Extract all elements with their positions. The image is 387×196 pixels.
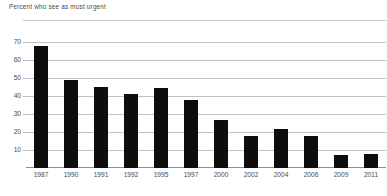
gridline-10 [26,150,386,151]
y-tick-label-40: 40 [14,93,21,100]
bar-1991 [94,87,108,168]
bar-2009 [334,155,348,168]
bar-1995 [154,88,168,168]
x-tick-label-2000: 2000 [206,172,236,179]
x-tick-label-2011: 2011 [356,172,386,179]
bar-1992 [124,94,138,168]
y-tick-label-30: 30 [14,111,21,118]
gridline-30 [26,114,386,115]
y-axis: 10203040506070 [6,37,21,168]
gridline-60 [26,60,386,61]
x-tick-label-1995: 1995 [146,172,176,179]
plot-area [26,37,386,168]
y-tick-label-10: 10 [14,147,21,154]
x-axis: 1987199019911992199519972000200220042006… [26,172,386,188]
bar-1997 [184,100,198,168]
gridline-40 [26,96,386,97]
bar-2006 [304,136,318,168]
x-tick-label-1991: 1991 [86,172,116,179]
gridline-70 [26,42,386,43]
y-tick-label-70: 70 [14,39,21,46]
bar-chart-figure: Percent who see as most urgent 102030405… [0,0,387,196]
bar-1987 [34,46,48,168]
gridline-20 [26,132,386,133]
y-tick-label-60: 60 [14,57,21,64]
x-tick-label-1987: 1987 [26,172,56,179]
bar-2000 [214,120,228,168]
x-axis-baseline [26,167,386,168]
y-tick-label-20: 20 [14,129,21,136]
x-tick-label-1997: 1997 [176,172,206,179]
gridline-50 [26,78,386,79]
bar-2002 [244,136,258,168]
x-tick-label-2006: 2006 [296,172,326,179]
x-tick-label-2009: 2009 [326,172,356,179]
x-tick-label-1992: 1992 [116,172,146,179]
chart-title: Percent who see as most urgent [9,3,106,10]
bar-1990 [64,80,78,168]
x-tick-label-2002: 2002 [236,172,266,179]
x-tick-label-1990: 1990 [56,172,86,179]
y-tick-label-50: 50 [14,75,21,82]
bar-2011 [364,154,378,168]
x-tick-label-2004: 2004 [266,172,296,179]
bar-2004 [274,129,288,168]
title-divider-rule [23,20,386,21]
